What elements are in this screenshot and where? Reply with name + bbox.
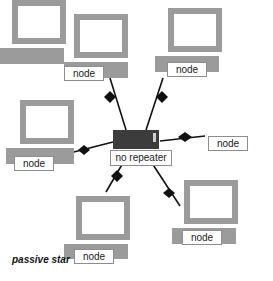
node-top-right-label: node	[167, 62, 207, 77]
link-to-top-right	[146, 78, 163, 130]
hub-label: no repeater	[110, 150, 172, 166]
node-top-left-label: node	[64, 66, 104, 81]
monitor-screen	[82, 202, 124, 234]
monitor-base	[0, 48, 64, 64]
monitor-screen	[18, 6, 60, 38]
monitor-screen	[80, 20, 122, 52]
hub-device-icon[interactable]	[113, 130, 159, 149]
monitor-icon	[184, 180, 238, 224]
monitor-icon	[12, 0, 66, 44]
passive-star-diagram: node node node node node node	[0, 0, 273, 281]
monitor-screen	[190, 186, 232, 218]
monitor-icon	[74, 14, 128, 58]
tap-right	[178, 132, 192, 142]
monitor-icon	[168, 8, 222, 52]
monitor-icon	[20, 100, 74, 144]
figure-caption: passive star	[12, 254, 70, 265]
node-bottom-right-label: node	[182, 230, 222, 245]
node-bottom-left-label: node	[74, 249, 114, 264]
monitor-screen	[26, 106, 68, 138]
node-left-label: node	[14, 156, 54, 171]
monitor-icon	[76, 196, 130, 240]
monitor-screen	[174, 14, 216, 46]
hub-led-icon	[153, 133, 156, 142]
node-right-label: node	[208, 136, 248, 151]
